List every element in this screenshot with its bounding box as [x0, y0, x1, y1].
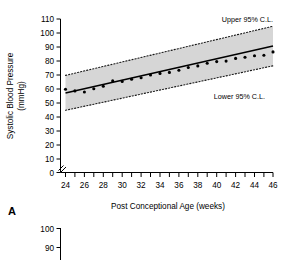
y-axis-title-line2: (mmHg)	[17, 81, 26, 111]
data-point	[121, 80, 124, 83]
x-tick-label: 38	[193, 181, 203, 190]
y-axis-ticks	[57, 19, 61, 173]
data-point	[73, 89, 76, 92]
x-tick-label: 42	[231, 181, 241, 190]
second-panel-partial: 100 90	[40, 225, 60, 260]
axis-break-icon	[59, 166, 67, 173]
y-tick-label: 90	[45, 43, 55, 52]
y-tick-label: 10	[45, 155, 55, 164]
x-tick-label: 46	[268, 181, 278, 190]
x-axis-title: Post Conceptional Age (weeks)	[111, 202, 225, 211]
data-point	[271, 50, 274, 53]
data-point	[92, 87, 95, 90]
y-tick-label: 30	[45, 127, 55, 136]
x-tick-label: 34	[155, 181, 165, 190]
y-tick-label: 0	[49, 169, 54, 178]
systolic-blood-pressure-chart: Systolic Blood Pressure (mmHg)	[0, 0, 281, 260]
data-point	[111, 79, 114, 82]
y-tick-label: 100	[40, 29, 54, 38]
x-tick-label: 40	[212, 181, 222, 190]
data-point	[177, 69, 180, 72]
x-tick-label: 28	[99, 181, 109, 190]
x-axis-tick-labels: 24 26 28 30 32 34 36 38 40 42 44 46	[61, 181, 278, 190]
data-point	[64, 88, 67, 91]
y-axis-tick-labels: 110 100 90 80 70 60 50 40 30 20 10 0	[40, 15, 54, 178]
data-point	[130, 78, 133, 81]
panel-letter-a: A	[8, 205, 16, 217]
data-point	[158, 72, 161, 75]
data-point	[215, 60, 218, 63]
data-point	[187, 66, 190, 69]
x-axis-ticks	[66, 173, 274, 178]
data-point	[206, 62, 209, 65]
data-point	[140, 76, 143, 79]
y-tick-label: 50	[45, 99, 55, 108]
second-panel-y-tick-label: 100	[40, 225, 54, 234]
data-point	[262, 54, 265, 57]
data-point	[149, 73, 152, 76]
y-axis-title-line1: Systolic Blood Pressure	[6, 52, 15, 139]
x-tick-label: 44	[250, 181, 260, 190]
data-point	[234, 57, 237, 60]
x-tick-label: 24	[61, 181, 71, 190]
data-point	[196, 64, 199, 67]
y-tick-label: 80	[45, 57, 55, 66]
x-axis: 24 26 28 30 32 34 36 38 40 42 44 46 Post…	[61, 173, 278, 212]
y-tick-label: 60	[45, 85, 55, 94]
data-point	[243, 56, 246, 59]
y-tick-label: 40	[45, 113, 55, 122]
data-point	[168, 71, 171, 74]
data-point	[83, 90, 86, 93]
y-axis: 110 100 90 80 70 60 50 40 30 20 10 0	[40, 15, 60, 178]
data-point	[102, 85, 105, 88]
y-tick-label: 110	[41, 15, 54, 24]
x-tick-label: 26	[80, 181, 90, 190]
y-axis-title: Systolic Blood Pressure (mmHg)	[6, 52, 26, 139]
lower-confidence-limit-label: Lower 95% C.L.	[214, 92, 265, 101]
data-point	[225, 60, 228, 63]
x-tick-label: 30	[118, 181, 128, 190]
data-point	[253, 54, 256, 57]
y-tick-label: 20	[45, 141, 55, 150]
x-tick-label: 32	[137, 181, 147, 190]
second-panel-y-tick-label: 90	[45, 244, 55, 253]
x-tick-label: 36	[174, 181, 184, 190]
plot-area: Upper 95% C.L. Lower 95% C.L.	[64, 15, 275, 110]
y-tick-label: 70	[45, 71, 55, 80]
second-panel-y-ticks	[57, 229, 61, 248]
upper-confidence-limit-label: Upper 95% C.L.	[222, 15, 273, 24]
figure-panel-a: Systolic Blood Pressure (mmHg)	[0, 0, 281, 260]
second-panel-tick-labels: 100 90	[40, 225, 54, 253]
